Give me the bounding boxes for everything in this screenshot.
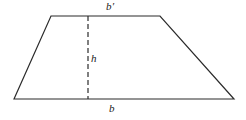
top-base-label: b′: [106, 1, 114, 12]
trapezoid-figure: b′ h b: [0, 0, 246, 120]
bottom-base-label: b: [109, 103, 115, 114]
trapezoid-outline: [14, 16, 234, 99]
height-label: h: [91, 53, 97, 64]
trapezoid-diagram-svg: [0, 0, 246, 120]
